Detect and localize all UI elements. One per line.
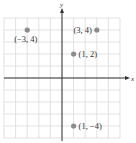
data-point: (1, 2) [71, 49, 97, 59]
data-point: (3, 4) [73, 25, 99, 35]
point-marker [25, 27, 30, 32]
point-label: (−3, 4) [14, 34, 37, 44]
point-label: (1, 2) [79, 49, 98, 59]
axes: x y [4, 1, 135, 141]
x-axis-arrow-icon [125, 76, 130, 80]
y-axis-label: y [59, 1, 64, 9]
point-label: (1, −4) [79, 121, 102, 131]
point-marker [71, 51, 76, 56]
x-axis-label: x [130, 75, 135, 83]
point-marker [71, 123, 76, 128]
data-point: (1, −4) [71, 121, 102, 131]
point-marker [94, 27, 99, 32]
point-label: (3, 4) [73, 25, 92, 35]
coordinate-plane: x y (−3, 4)(3, 4)(1, 2)(1, −4) [0, 0, 136, 143]
